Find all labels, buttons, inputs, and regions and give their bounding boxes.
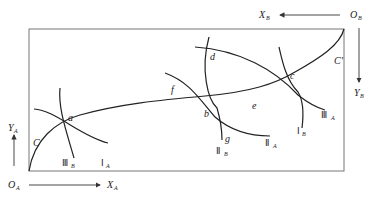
svg-text:O: O — [350, 9, 357, 20]
svg-text:Ⅱ: Ⅱ — [265, 138, 269, 148]
svg-text:A: A — [330, 115, 335, 121]
origin-b-label: O B — [350, 9, 362, 21]
label-IIB: Ⅱ B — [216, 146, 228, 157]
svg-text:A: A — [105, 163, 110, 169]
point-g-label: g — [225, 133, 230, 144]
edgeworth-box-diagram: a b c d e f g C C' Ⅲ B Ⅰ A Ⅱ B Ⅱ A Ⅰ B Ⅲ… — [0, 0, 372, 198]
svg-text:A: A — [15, 185, 20, 191]
y-a-label: Y A — [8, 122, 18, 134]
point-b-label: b — [204, 108, 209, 119]
x-b-label: X B — [258, 9, 270, 21]
svg-text:X: X — [258, 9, 266, 20]
x-a-label: X A — [106, 179, 118, 191]
point-f-label: f — [171, 84, 175, 95]
y-b-label: Y B — [354, 87, 364, 99]
contract-curve-c-label: C — [33, 137, 40, 148]
svg-text:Ⅰ: Ⅰ — [297, 126, 300, 136]
point-e-label: e — [252, 100, 257, 111]
svg-text:B: B — [266, 15, 270, 21]
svg-text:B: B — [302, 131, 306, 137]
svg-text:A: A — [272, 143, 277, 149]
svg-text:B: B — [71, 163, 75, 169]
label-IIIB: Ⅲ B — [62, 158, 75, 169]
svg-text:B: B — [358, 15, 362, 21]
svg-text:O: O — [8, 179, 15, 190]
contract-curve — [29, 29, 344, 171]
svg-text:Ⅰ: Ⅰ — [101, 158, 104, 168]
svg-text:Ⅲ: Ⅲ — [321, 110, 327, 120]
contract-curve-c-prime-label: C' — [334, 55, 344, 66]
svg-text:B: B — [224, 151, 228, 157]
point-a-label: a — [68, 112, 73, 123]
svg-text:A: A — [13, 128, 18, 134]
label-IIIA: Ⅲ A — [321, 110, 335, 121]
edgeworth-box-frame — [29, 29, 344, 171]
svg-text:X: X — [106, 179, 114, 190]
label-IIA: Ⅱ A — [265, 138, 277, 149]
svg-text:A: A — [113, 185, 118, 191]
svg-text:Ⅲ: Ⅲ — [62, 158, 68, 168]
origin-a-label: O A — [8, 179, 20, 191]
point-c-label: c — [290, 70, 295, 81]
label-IA: Ⅰ A — [101, 158, 110, 169]
point-d-label: d — [210, 51, 216, 62]
svg-text:Ⅱ: Ⅱ — [216, 146, 220, 156]
svg-text:B: B — [360, 93, 364, 99]
